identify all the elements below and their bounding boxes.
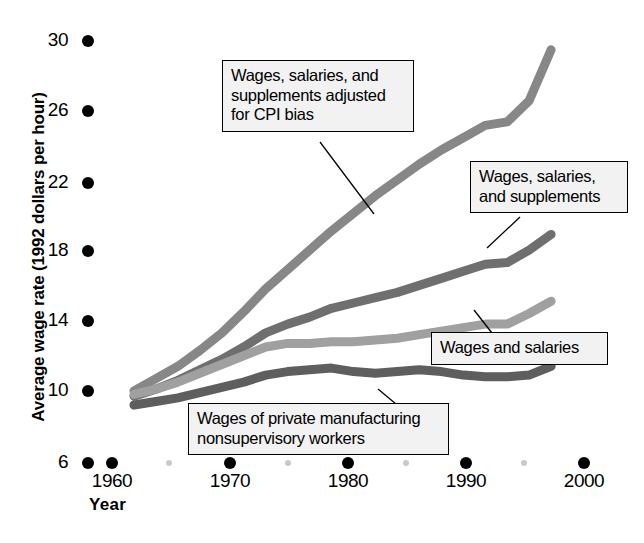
callout-manufacturing-line-1: Wages of private manufacturing	[197, 409, 440, 429]
callout-cpi-adjusted-line-2: supplements adjusted	[231, 86, 405, 106]
callout-wages-supplements-line-2: and supplements	[479, 187, 619, 207]
leader-line-cpi-adjusted	[320, 142, 374, 214]
callout-wages-supplements-line-1: Wages, salaries,	[479, 167, 619, 187]
leader-line-manufacturing	[378, 389, 396, 404]
callout-cpi-adjusted-line-1: Wages, salaries, and	[231, 66, 405, 86]
callout-wages-supplements: Wages, salaries, and supplements	[470, 161, 628, 213]
callout-cpi-adjusted-line-3: for CPI bias	[231, 105, 405, 125]
callout-manufacturing-line-2: nonsupervisory workers	[197, 429, 440, 449]
callout-cpi-adjusted: Wages, salaries, and supplements adjuste…	[222, 60, 414, 132]
callout-wages-salaries-line-1: Wages and salaries	[440, 338, 599, 358]
wage-rate-line-chart: Average wage rate (1992 dollars per hour…	[0, 0, 644, 543]
leader-line-wages-supplements	[487, 217, 520, 248]
callout-manufacturing: Wages of private manufacturing nonsuperv…	[188, 403, 449, 455]
callout-wages-salaries: Wages and salaries	[431, 332, 608, 365]
